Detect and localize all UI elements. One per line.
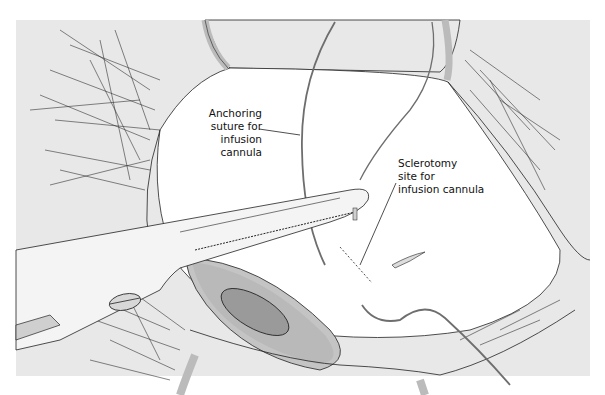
anchoring-label-line-3: infusion xyxy=(192,133,262,146)
anchoring-label-line-2: suture for xyxy=(192,120,262,133)
retractor-bottom-right xyxy=(420,380,425,395)
surgical-illustration xyxy=(0,0,605,395)
sclerotomy-site-label: Sclerotomy site for infusion cannula xyxy=(398,157,508,196)
sclerotomy-label-line-3: infusion cannula xyxy=(398,183,508,196)
anchoring-label-line-4: cannula xyxy=(192,146,262,159)
retractor-top-right xyxy=(445,20,449,80)
forceps-tip-clamp xyxy=(353,208,357,220)
sclerotomy-label-line-2: site for xyxy=(398,170,508,183)
sclerotomy-label-line-1: Sclerotomy xyxy=(398,157,508,170)
anchoring-label-line-1: Anchoring xyxy=(192,107,262,120)
anchoring-suture-label: Anchoring suture for infusion cannula xyxy=(192,107,262,159)
